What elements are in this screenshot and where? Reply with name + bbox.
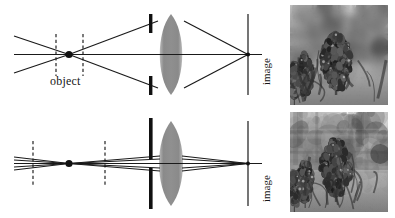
ray-diagram-narrow xyxy=(0,109,285,218)
aperture-blade-upper xyxy=(149,118,153,159)
aperture-blade-upper xyxy=(149,14,152,33)
object-point xyxy=(65,160,72,167)
aperture-blade-lower xyxy=(149,168,153,209)
image-label-top: image xyxy=(260,58,272,85)
image-label-bottom: image xyxy=(260,175,272,202)
object-point xyxy=(65,51,72,58)
aperture-blade-lower xyxy=(149,76,152,95)
ray-diagram-wide xyxy=(0,0,285,109)
panel-narrow-aperture xyxy=(0,109,285,218)
object-label: object xyxy=(50,74,81,89)
depth-of-field-figure: object image image xyxy=(0,0,395,218)
image-point xyxy=(246,52,250,56)
image-point xyxy=(246,162,250,166)
photo-shallow-dof-canvas xyxy=(290,5,388,105)
panel-wide-aperture xyxy=(0,0,285,109)
photo-shallow-dof xyxy=(290,5,388,105)
photo-deep-dof-canvas xyxy=(290,112,388,212)
photo-deep-dof xyxy=(290,112,388,212)
